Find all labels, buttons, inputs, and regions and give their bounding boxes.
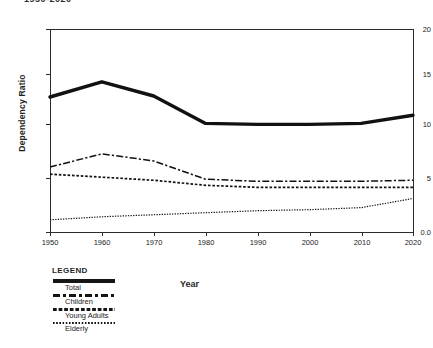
legend-item-young-adults: Young Adults: [52, 308, 182, 321]
legend-label-children: Children: [65, 297, 182, 307]
legend-item-elderly: Elderly: [52, 322, 182, 334]
series-line-total: [50, 82, 413, 125]
legend-label-elderly: Elderly: [65, 324, 182, 334]
legend-label-young-adults: Young Adults: [65, 311, 182, 321]
legend-title: LEGEND: [52, 266, 182, 275]
legend-item-children: Children: [52, 294, 182, 307]
legend-label-total: Total: [65, 283, 182, 293]
series-line-elderly: [50, 199, 413, 220]
legend-item-total: Total: [52, 279, 182, 293]
chart-legend: LEGEND Total Children Young Adults Elder…: [52, 266, 182, 335]
x-axis-title: Year: [180, 279, 199, 289]
